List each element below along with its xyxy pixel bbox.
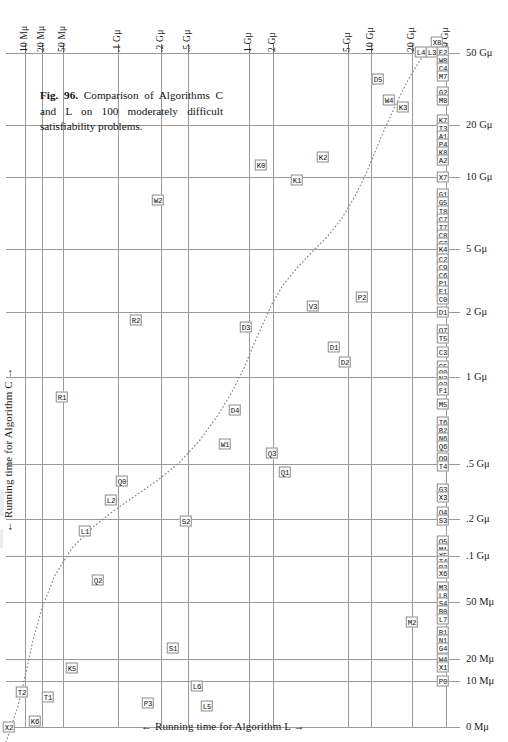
- data-point-label: K6: [29, 716, 41, 727]
- top-tick-label: 20 Mμ: [36, 26, 46, 52]
- data-point-label: C3: [437, 347, 449, 358]
- data-point-label: P3: [142, 698, 154, 709]
- data-point-label: P2: [356, 292, 368, 303]
- data-point-label: Q6: [437, 441, 449, 452]
- data-point-label: A2: [437, 155, 449, 166]
- x-axis-caption: ← Running time for Algorithm L →: [141, 720, 305, 732]
- data-point-label: Q1: [279, 467, 291, 478]
- data-point-label: W2: [152, 195, 164, 206]
- right-tick-label: 50 Mμ: [466, 596, 494, 607]
- data-point-label: W4: [383, 95, 395, 106]
- right-tick-label: 50 Gμ: [466, 47, 492, 58]
- figure-caption: Fig. 96. Comparison of Algorithms C and …: [40, 88, 223, 135]
- data-point-label: P0: [437, 676, 449, 687]
- right-tick-label: 10 Gμ: [466, 171, 492, 182]
- data-point-label: S2: [180, 516, 192, 527]
- top-tick-label: 1 Gμ: [243, 32, 253, 52]
- top-tick-label: .1 Gμ: [112, 30, 122, 52]
- data-point-label: M8: [437, 95, 449, 106]
- data-point-label: Q2: [92, 575, 104, 586]
- top-tick-label: 10 Mμ: [19, 26, 29, 52]
- data-point-label: L7: [437, 614, 449, 625]
- data-point-label: K3: [397, 102, 409, 113]
- data-point-label: X3: [437, 492, 449, 503]
- data-point-label: X7: [437, 172, 449, 183]
- data-point-label: W1: [219, 439, 231, 450]
- data-point-label: C0: [437, 294, 449, 305]
- data-point-label: F1: [437, 385, 449, 396]
- data-point-label: Q3: [266, 448, 278, 459]
- top-tick-label: 50 Mμ: [57, 26, 67, 52]
- data-point-label: X1: [437, 662, 449, 673]
- right-tick-label: 20 Gμ: [466, 119, 492, 130]
- data-point-label: T2: [16, 687, 28, 698]
- y-axis-caption: ← Running time for Algorithm C →: [2, 367, 14, 532]
- data-point-label: L5: [201, 701, 213, 712]
- data-point-label: D3: [240, 322, 252, 333]
- data-point-label: T5: [437, 333, 449, 344]
- figure-caption-number: Fig. 96.: [40, 89, 78, 101]
- data-point-label: S1: [167, 643, 179, 654]
- right-tick-label: 20 Mμ: [466, 653, 494, 664]
- data-point-label: L6: [191, 681, 203, 692]
- right-tick-label: 2 Gμ: [466, 306, 487, 317]
- top-tick-label: 10 Gμ: [365, 27, 375, 52]
- right-tick-label: .1 Gμ: [466, 550, 490, 561]
- data-point-label: D2: [339, 357, 351, 368]
- data-point-label: M7: [437, 71, 449, 82]
- figure-plot-area: 10 Mμ20 Mμ50 Mμ.1 Gμ.2 Gμ.5 Gμ1 Gμ2 Gμ5 …: [0, 0, 508, 742]
- data-point-label: R1: [56, 392, 68, 403]
- data-point-label: D5: [372, 74, 384, 85]
- data-point-label: Q0: [116, 476, 128, 487]
- data-point-label: K0: [255, 160, 267, 171]
- right-tick-label: .5 Gμ: [466, 458, 490, 469]
- data-point-label: T4: [437, 461, 449, 472]
- data-point-label: M5: [437, 399, 449, 410]
- data-point-label: X2: [3, 722, 15, 733]
- right-tick-label: .2 Gμ: [466, 513, 490, 524]
- data-point-label: D4: [229, 405, 241, 416]
- right-tick-label: 10 Mμ: [466, 675, 494, 686]
- data-point-label: T1: [42, 692, 54, 703]
- data-point-label: M2: [406, 617, 418, 628]
- top-tick-label: 5 Gμ: [342, 32, 352, 52]
- data-point-label: K1: [291, 175, 303, 186]
- right-tick-label: 1 Gμ: [466, 371, 487, 382]
- data-point-label: L2: [105, 495, 117, 506]
- right-tick-label: 0 Mμ: [466, 721, 489, 732]
- top-tick-label: 2 Gμ: [267, 32, 277, 52]
- right-tick-label: 5 Gμ: [466, 243, 487, 254]
- data-point-label: K2: [317, 152, 329, 163]
- top-tick-label: .2 Gμ: [155, 30, 165, 52]
- data-point-label: L1: [79, 526, 91, 537]
- data-point-label: D1: [328, 342, 340, 353]
- data-point-label: K5: [66, 663, 78, 674]
- data-point-label: X6: [437, 568, 449, 579]
- data-point-label: V3: [307, 301, 319, 312]
- data-point-label: R2: [130, 315, 142, 326]
- data-point-label: G4: [437, 643, 449, 654]
- top-tick-label: .5 Gμ: [182, 30, 192, 52]
- data-point-label: S3: [437, 515, 449, 526]
- data-point-label: D1: [437, 307, 449, 318]
